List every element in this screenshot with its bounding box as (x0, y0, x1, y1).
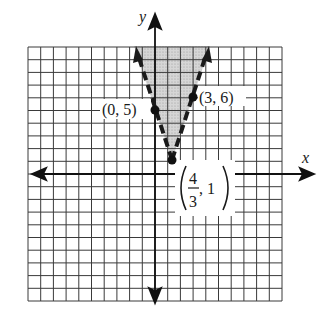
x-axis-left-arrow-icon (32, 168, 46, 180)
point-0-5 (151, 106, 160, 115)
point-label-0-5: (0, 5) (102, 101, 137, 119)
vertex-label-denominator: 3 (189, 193, 197, 210)
y-axis-up-arrow-icon (149, 14, 161, 29)
y-axis-label: y (137, 8, 147, 26)
point-label-3-6: (3, 6) (199, 89, 234, 107)
vertex-label-y: , 1 (199, 180, 215, 197)
vertex-label-numerator: 4 (189, 170, 197, 187)
x-axis-label: x (301, 149, 309, 166)
graph: y x (0, 5) (3, 6) 4 3 , 1 (0, 0, 327, 322)
point-vertex (168, 156, 177, 165)
x-axis-right-arrow-icon (300, 168, 314, 180)
point-3-6 (189, 93, 198, 102)
